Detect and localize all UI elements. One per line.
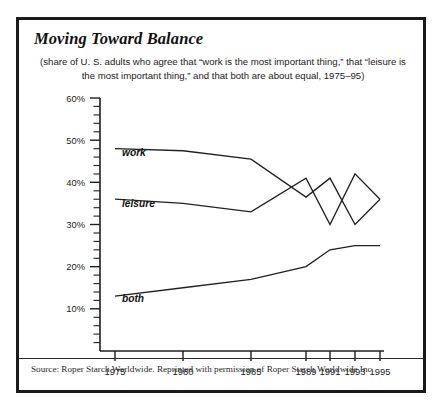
- x-axis-ticks: [115, 351, 380, 361]
- y-tick-label-40: 40%: [66, 177, 85, 188]
- y-tick-label-30: 30%: [66, 219, 85, 230]
- series-label-both: both: [122, 293, 144, 304]
- y-tick-label-10: 10%: [66, 303, 85, 314]
- source-note: Source: Roper Starch Worldwide. Reprinte…: [31, 364, 374, 374]
- series-label-leisure: leisure: [122, 198, 155, 209]
- series-label-work: work: [122, 147, 147, 158]
- y-tick-label-50: 50%: [66, 135, 85, 146]
- source-divider: [19, 358, 423, 359]
- plot-area: 60% 50% 40% 30% 20% 10% 1975 1980 1985 1…: [19, 20, 423, 390]
- y-tick-label-20: 20%: [66, 261, 85, 272]
- y-tick-label-60: 60%: [66, 93, 85, 104]
- chart-figure: Moving Toward Balance (share of U. S. ad…: [16, 17, 426, 393]
- series-line-both: [115, 246, 380, 297]
- line-chart-svg: 60% 50% 40% 30% 20% 10% 1975 1980 1985 1…: [19, 20, 423, 390]
- series-line-work: [115, 149, 380, 225]
- y-axis-ticks: [90, 98, 100, 343]
